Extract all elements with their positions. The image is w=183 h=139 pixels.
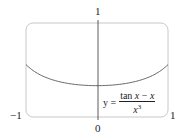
equation-fraction: tan x − x x3	[119, 90, 155, 115]
tan-text: tan	[120, 90, 132, 101]
var-x: x	[150, 90, 154, 101]
function-equation: y = tan x − x x3	[103, 90, 155, 115]
function-curve	[26, 65, 168, 86]
y-tick-label-1: 1	[95, 6, 101, 17]
equation-lhs: y =	[103, 97, 116, 108]
plot-area	[0, 0, 183, 139]
equation-denominator: x3	[133, 102, 141, 115]
minus-sign: −	[142, 90, 148, 101]
x-tick-label-neg1: −1	[10, 110, 22, 121]
equation-numerator: tan x − x	[119, 90, 155, 102]
var-x: x	[135, 90, 139, 101]
x-tick-label-0: 0	[95, 123, 101, 134]
exponent: 3	[138, 103, 142, 111]
x-tick-label-1: 1	[170, 110, 176, 121]
